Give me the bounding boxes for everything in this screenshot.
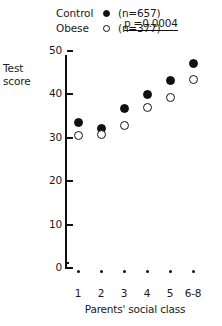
data-point-obese — [97, 130, 106, 139]
x-axis-tick-dot — [100, 270, 103, 273]
data-point-control — [166, 76, 175, 85]
legend-label-obese: Obese — [56, 21, 89, 35]
data-point-obese — [166, 93, 175, 102]
x-axis-tick-dot — [77, 270, 80, 273]
y-axis-tick-mark — [67, 224, 73, 226]
x-axis-foot — [65, 262, 69, 264]
data-point-obese — [74, 131, 83, 140]
y-axis-tick-label: 40 — [38, 88, 62, 99]
y-axis-title: Test score — [3, 62, 47, 88]
y-axis-title-line1: Test — [3, 62, 47, 75]
y-axis-tick-label: 20 — [38, 175, 62, 186]
y-axis-tick-label-text: 20 — [38, 175, 62, 186]
data-point-obese — [120, 121, 129, 130]
y-axis-tick-label-text: 30 — [38, 132, 62, 143]
data-point-obese — [143, 103, 152, 112]
y-axis-tick-label: 50 — [38, 45, 62, 56]
x-axis-title: Parents' social class — [48, 303, 222, 316]
y-axis-tick-label: 30 — [38, 132, 62, 143]
data-point-control — [143, 90, 152, 99]
y-axis-tick-label-text: 10 — [38, 219, 62, 230]
open-circle-icon — [103, 25, 110, 32]
y-axis-tick-mark — [67, 50, 73, 52]
y-axis-tick-mark — [67, 93, 73, 95]
y-axis-tick-label: 0 — [38, 262, 62, 273]
pvalue-annotation: p =0.0004 — [124, 16, 178, 31]
y-axis-tick-mark — [67, 267, 73, 269]
x-axis-tick-dot — [123, 270, 126, 273]
y-axis-tick-mark — [67, 137, 73, 139]
y-axis-tick-label-text: 40 — [38, 88, 62, 99]
data-point-control — [189, 59, 198, 68]
x-axis-tick-label: 6-8 — [180, 287, 206, 299]
x-axis-tick-dot — [192, 270, 195, 273]
data-point-control — [74, 118, 83, 127]
data-point-control — [120, 104, 129, 113]
y-axis-tick-label: 10 — [38, 219, 62, 230]
y-axis-tick-label-text: 50 — [38, 45, 62, 56]
scatter-chart-figure: Control (n=657) Obese (n=377) p =0.0004 … — [0, 0, 222, 326]
y-axis-tick-label-text: 0 — [38, 262, 62, 273]
x-axis-tick-dot — [169, 270, 172, 273]
filled-circle-icon — [103, 10, 110, 17]
legend-label-control: Control — [56, 6, 93, 20]
x-axis-tick-dot — [146, 270, 149, 273]
y-axis-title-line2: score — [3, 75, 47, 88]
y-axis-line — [65, 55, 67, 269]
data-point-obese — [189, 75, 198, 84]
y-axis-tick-mark — [67, 180, 73, 182]
